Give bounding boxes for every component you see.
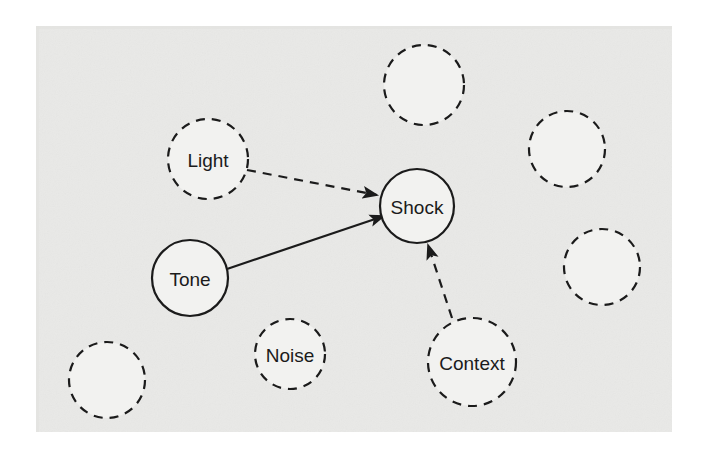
figure-root: Light Shock Tone Noise Context [0, 0, 703, 451]
node-empty-top[interactable] [384, 45, 464, 125]
node-noise[interactable]: Noise [255, 319, 325, 389]
node-empty-right-lower[interactable] [564, 229, 640, 305]
node-light-label: Light [187, 150, 229, 171]
node-context-label: Context [439, 353, 505, 374]
associative-network-diagram: Light Shock Tone Noise Context [0, 0, 703, 451]
node-tone[interactable]: Tone [152, 240, 228, 316]
node-context[interactable]: Context [428, 318, 516, 406]
node-empty-bottom-left[interactable] [69, 342, 145, 418]
node-empty-right-upper[interactable] [529, 111, 605, 187]
node-shock[interactable]: Shock [380, 169, 454, 243]
node-tone-label: Tone [169, 269, 210, 290]
node-shock-label: Shock [391, 197, 444, 218]
node-light[interactable]: Light [168, 119, 248, 199]
node-noise-label: Noise [266, 345, 315, 366]
